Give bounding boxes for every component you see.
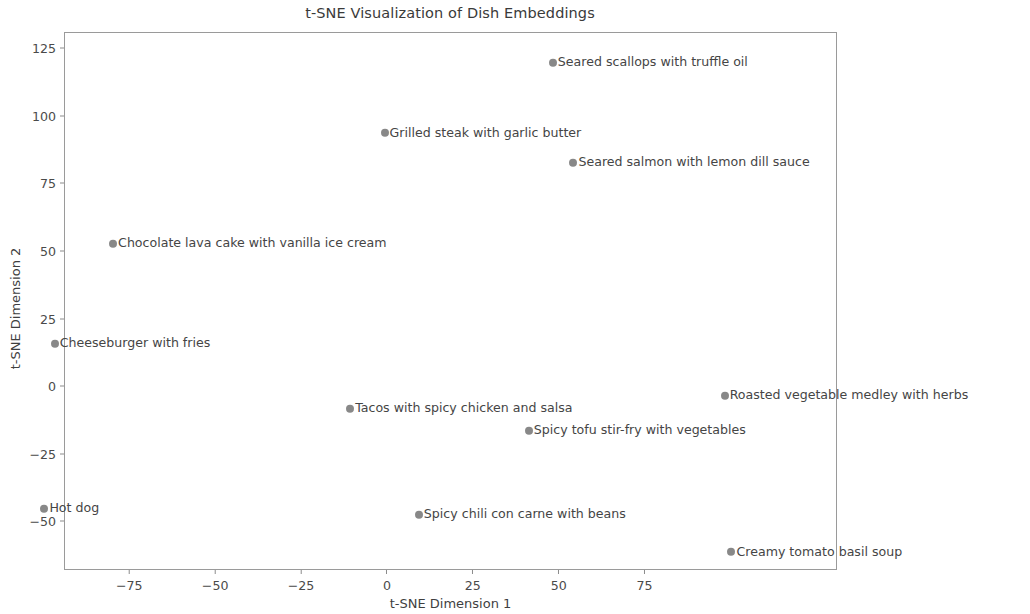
x-tick: 75 xyxy=(637,570,653,593)
x-tick: 50 xyxy=(551,570,567,593)
y-tick: 0 xyxy=(18,379,64,394)
y-tick-label: 125 xyxy=(32,41,56,56)
y-tick-label: 50 xyxy=(40,243,56,258)
y-tick-label: −50 xyxy=(29,514,56,529)
scatter-point: Seared salmon with lemon dill sauce xyxy=(569,156,809,169)
scatter-point-label: Spicy chili con carne with beans xyxy=(424,507,626,520)
y-tick-label: 75 xyxy=(40,176,56,191)
scatter-point-label: Tacos with spicy chicken and salsa xyxy=(355,402,572,415)
x-tick: 0 xyxy=(383,570,391,593)
x-tick-label: 50 xyxy=(551,578,567,593)
x-tick: −50 xyxy=(202,570,229,593)
y-tick: 50 xyxy=(18,243,64,258)
scatter-point: Cheeseburger with fries xyxy=(51,338,211,351)
y-tick-mark xyxy=(60,453,64,454)
x-tick-label: 0 xyxy=(383,578,391,593)
y-tick: −25 xyxy=(18,446,64,461)
scatter-point: Seared scallops with truffle oil xyxy=(549,56,748,69)
y-tick-mark xyxy=(60,250,64,251)
x-tick-mark xyxy=(644,570,645,574)
x-tick-label: −50 xyxy=(202,578,229,593)
x-tick: 25 xyxy=(465,570,481,593)
x-tick-mark xyxy=(301,570,302,574)
scatter-point-marker xyxy=(40,505,48,513)
scatter-point-marker xyxy=(721,391,729,399)
scatter-point-label: Chocolate lava cake with vanilla ice cre… xyxy=(118,237,386,250)
x-tick-mark xyxy=(558,570,559,574)
scatter-point: Grilled steak with garlic butter xyxy=(381,127,582,140)
y-tick: 125 xyxy=(18,41,64,56)
x-tick-label: −25 xyxy=(288,578,315,593)
scatter-point: Spicy chili con carne with beans xyxy=(415,508,626,521)
scatter-point-label: Cheeseburger with fries xyxy=(60,337,211,350)
x-tick-mark xyxy=(472,570,473,574)
chart-title: t-SNE Visualization of Dish Embeddings xyxy=(0,5,900,21)
x-tick-mark xyxy=(129,570,130,574)
y-tick-mark xyxy=(60,318,64,319)
scatter-point: Roasted vegetable medley with herbs xyxy=(721,389,969,402)
x-tick: −75 xyxy=(116,570,143,593)
y-tick-mark xyxy=(60,386,64,387)
y-tick-label: 0 xyxy=(48,379,56,394)
scatter-point-marker xyxy=(525,426,533,434)
x-tick-label: 25 xyxy=(465,578,481,593)
x-tick-mark xyxy=(215,570,216,574)
chart-page: t-SNE Visualization of Dish Embeddings S… xyxy=(0,0,1030,614)
scatter-point-marker xyxy=(727,548,735,556)
scatter-point-label: Hot dog xyxy=(49,502,99,515)
x-axis-label: t-SNE Dimension 1 xyxy=(64,596,837,611)
y-tick-mark xyxy=(60,115,64,116)
y-tick-mark xyxy=(60,48,64,49)
scatter-point-marker xyxy=(109,240,117,248)
x-tick: −25 xyxy=(288,570,315,593)
scatter-point: Creamy tomato basil soup xyxy=(727,546,902,559)
x-tick-label: −75 xyxy=(116,578,143,593)
scatter-point-label: Creamy tomato basil soup xyxy=(736,545,902,558)
x-tick-label: 75 xyxy=(637,578,653,593)
scatter-point-label: Spicy tofu stir-fry with vegetables xyxy=(534,424,746,437)
y-tick-label: 25 xyxy=(40,311,56,326)
scatter-point-marker xyxy=(549,59,557,67)
plot-area: Seared scallops with truffle oilGrilled … xyxy=(64,32,837,570)
scatter-point-marker xyxy=(569,159,577,167)
scatter-point: Spicy tofu stir-fry with vegetables xyxy=(525,424,746,437)
y-tick-mark xyxy=(60,521,64,522)
scatter-point-label: Grilled steak with garlic butter xyxy=(390,126,582,139)
y-tick: 100 xyxy=(18,108,64,123)
x-tick-mark xyxy=(386,570,387,574)
y-tick: 75 xyxy=(18,176,64,191)
y-tick-mark xyxy=(60,183,64,184)
y-tick: −50 xyxy=(18,514,64,529)
y-tick-label: −25 xyxy=(29,446,56,461)
scatter-point-label: Seared scallops with truffle oil xyxy=(558,56,748,69)
scatter-point-marker xyxy=(415,510,423,518)
scatter-point: Tacos with spicy chicken and salsa xyxy=(346,402,572,415)
y-tick-label: 100 xyxy=(32,108,56,123)
scatter-point-label: Seared salmon with lemon dill sauce xyxy=(578,156,809,169)
scatter-point: Chocolate lava cake with vanilla ice cre… xyxy=(109,238,386,251)
y-axis-label: t-SNE Dimension 2 xyxy=(8,189,23,429)
scatter-point-label: Roasted vegetable medley with herbs xyxy=(730,388,969,401)
scatter-point-marker xyxy=(51,340,59,348)
scatter-point-marker xyxy=(381,129,389,137)
y-tick: 25 xyxy=(18,311,64,326)
scatter-point-marker xyxy=(346,405,354,413)
